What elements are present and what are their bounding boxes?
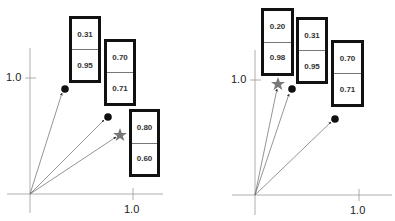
vector-value-box: 0.70 0.71 xyxy=(331,40,364,107)
left-y-tick-label: 1.0 xyxy=(6,71,21,83)
y-value: 0.60 xyxy=(132,144,157,175)
y-value: 0.98 xyxy=(264,43,291,74)
right-x-tick-label: 1.0 xyxy=(350,204,365,216)
dot-marker xyxy=(331,115,339,123)
star-marker xyxy=(113,128,127,141)
right-y-tick-label: 1.0 xyxy=(231,73,246,85)
x-value: 0.20 xyxy=(264,11,291,43)
vector-value-box: 0.31 0.95 xyxy=(69,16,101,83)
y-value: 0.71 xyxy=(334,74,361,104)
dot-marker xyxy=(288,85,296,93)
y-value: 0.95 xyxy=(72,50,98,80)
vector-value-box: 0.31 0.95 xyxy=(296,17,328,84)
x-value: 0.31 xyxy=(72,19,98,50)
right-vectors xyxy=(255,77,339,195)
diagram-canvas xyxy=(0,0,395,221)
x-value: 0.70 xyxy=(334,43,361,74)
x-value: 0.80 xyxy=(132,112,157,144)
x-value: 0.31 xyxy=(299,20,325,51)
vector-value-box: 0.20 0.98 xyxy=(261,8,294,76)
x-value: 0.70 xyxy=(107,42,133,73)
dot-marker xyxy=(61,85,69,93)
vector-value-box: 0.70 0.71 xyxy=(104,39,136,106)
y-value: 0.71 xyxy=(107,73,133,103)
left-x-tick-label: 1.0 xyxy=(124,203,139,215)
star-marker xyxy=(271,77,285,90)
vector-value-box: 0.80 0.60 xyxy=(129,109,160,177)
y-value: 0.95 xyxy=(299,51,325,81)
dot-marker xyxy=(104,113,112,121)
